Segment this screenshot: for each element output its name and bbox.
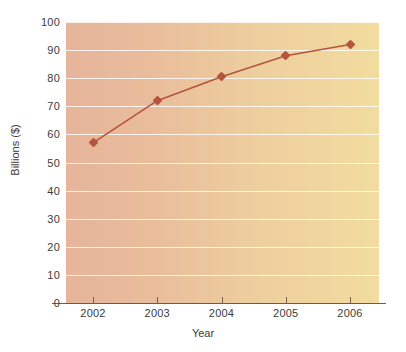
y-axis-tick-label: 10 — [6, 269, 60, 281]
y-axis-tick-label: 80 — [6, 72, 60, 84]
x-axis-tick-label: 2005 — [256, 307, 316, 319]
y-axis-tick-label: 20 — [6, 241, 60, 253]
line-chart: 0102030405060708090100 20022003200420052… — [0, 0, 406, 352]
x-axis-tick-label: 2003 — [127, 307, 187, 319]
y-axis-title: Billions ($) — [9, 90, 21, 210]
y-axis-tick-label: 100 — [6, 16, 60, 28]
x-axis-tick-label: 2004 — [192, 307, 252, 319]
x-axis-tick-label: 2002 — [63, 307, 123, 319]
y-axis-tick-label: 0 — [6, 297, 60, 309]
x-axis-tick-label: 2006 — [320, 307, 380, 319]
y-axis-tick-label: 30 — [6, 213, 60, 225]
data-series-line — [66, 22, 379, 303]
y-axis-tick-label: 90 — [6, 44, 60, 56]
x-axis-title: Year — [0, 327, 406, 339]
x-axis-line — [52, 303, 386, 304]
